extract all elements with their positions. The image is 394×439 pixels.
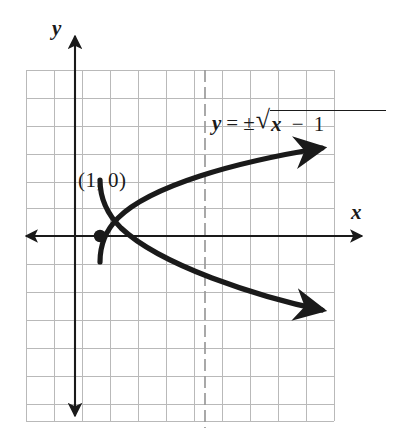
- equation-lhs: y: [212, 108, 221, 134]
- vertex-point-label: (1, 0): [78, 170, 127, 191]
- equation-equals-sign: =: [221, 108, 243, 134]
- equation-label: y = ± √ x − 1: [212, 108, 386, 135]
- radicand-variable: x: [271, 112, 282, 136]
- graph-figure: y x (1, 0) y = ± √ x − 1: [0, 0, 394, 439]
- curve-upper-branch: [100, 148, 322, 262]
- radicand-number: 1: [314, 112, 325, 136]
- plot-canvas: [0, 0, 394, 439]
- axis-label-y: y: [52, 18, 61, 39]
- radicand: x − 1: [270, 110, 386, 135]
- vertex-point-marker: [94, 230, 106, 242]
- radical-sign-icon: √: [256, 108, 270, 130]
- curve-lower-branch: [100, 180, 322, 310]
- radical-expression: √ x − 1: [256, 108, 387, 135]
- axis-label-x: x: [351, 202, 362, 223]
- equation-plus-minus-sign: ±: [243, 108, 256, 134]
- radicand-minus-sign: −: [287, 112, 309, 136]
